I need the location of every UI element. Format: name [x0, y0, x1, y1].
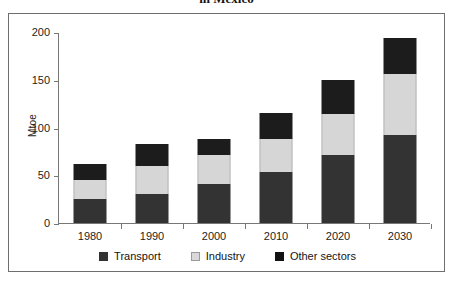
square-swatch-icon: [275, 252, 284, 261]
bar-segment-industry[interactable]: [260, 139, 293, 172]
y-axis-tick: 200: [54, 33, 59, 34]
bar-segment-industry[interactable]: [384, 74, 417, 135]
x-axis-tick: [245, 224, 246, 229]
x-axis-tick: [307, 224, 308, 229]
square-swatch-icon: [191, 252, 200, 261]
bar-segment-other-sectors[interactable]: [384, 38, 417, 74]
x-axis-tick: [431, 224, 432, 229]
bar-stack[interactable]: [74, 164, 107, 223]
bar-segment-other-sectors[interactable]: [322, 80, 355, 114]
legend-item-transport[interactable]: Transport: [99, 250, 161, 262]
y-axis-tick: 100: [54, 129, 59, 130]
y-axis-tick: 0: [54, 224, 59, 225]
figure-frame: Mtoe 05010015020019801990200020102020203…: [8, 13, 445, 272]
bar-stack[interactable]: [322, 80, 355, 223]
square-swatch-icon: [99, 252, 108, 261]
bar-stack[interactable]: [198, 139, 231, 223]
x-axis-tick-label: 2020: [326, 230, 350, 242]
plot-wrapper: Mtoe 05010015020019801990200020102020203…: [9, 14, 446, 273]
y-axis-tick-label: 50: [38, 169, 50, 181]
x-axis-tick: [183, 224, 184, 229]
bar-segment-other-sectors[interactable]: [198, 139, 231, 155]
y-axis-tick-label: 0: [44, 217, 50, 229]
y-axis-tick: 50: [54, 176, 59, 177]
bar-segment-transport[interactable]: [198, 184, 231, 223]
legend-label: Industry: [206, 250, 245, 262]
chart-title-strip: in Mexico: [0, 0, 453, 11]
x-axis-tick-label: 2030: [388, 230, 412, 242]
bar-segment-transport[interactable]: [74, 199, 107, 223]
bar-segment-other-sectors[interactable]: [74, 164, 107, 180]
y-axis-tick: 150: [54, 81, 59, 82]
bar-segment-industry[interactable]: [74, 180, 107, 199]
bar-segment-transport[interactable]: [136, 194, 169, 223]
bar-segment-transport[interactable]: [260, 172, 293, 223]
y-axis-tick-label: 100: [32, 122, 50, 134]
x-axis-tick-label: 1990: [140, 230, 164, 242]
bar-segment-transport[interactable]: [384, 135, 417, 223]
x-axis-tick: [121, 224, 122, 229]
bar-segment-industry[interactable]: [198, 155, 231, 184]
bar-segment-other-sectors[interactable]: [260, 113, 293, 139]
bar-stack[interactable]: [384, 38, 417, 223]
bar-stack[interactable]: [136, 144, 169, 223]
y-axis-tick-label: 200: [32, 26, 50, 38]
legend-label: Other sectors: [290, 250, 356, 262]
plot-area: 050100150200198019902000201020202030: [58, 33, 430, 224]
bar-segment-industry[interactable]: [136, 166, 169, 195]
chart-legend: Transport Industry Other sectors: [9, 250, 446, 262]
x-axis-tick-label: 2010: [264, 230, 288, 242]
y-axis-tick-label: 150: [32, 74, 50, 86]
bar-segment-transport[interactable]: [322, 155, 355, 223]
legend-item-other-sectors[interactable]: Other sectors: [275, 250, 356, 262]
bar-stack[interactable]: [260, 113, 293, 223]
bar-segment-other-sectors[interactable]: [136, 144, 169, 166]
legend-label: Transport: [114, 250, 161, 262]
x-axis-tick-label: 1980: [78, 230, 102, 242]
x-axis-tick-label: 2000: [202, 230, 226, 242]
page-title: in Mexico: [0, 0, 453, 7]
bar-segment-industry[interactable]: [322, 114, 355, 155]
legend-item-industry[interactable]: Industry: [191, 250, 245, 262]
x-axis-tick: [369, 224, 370, 229]
